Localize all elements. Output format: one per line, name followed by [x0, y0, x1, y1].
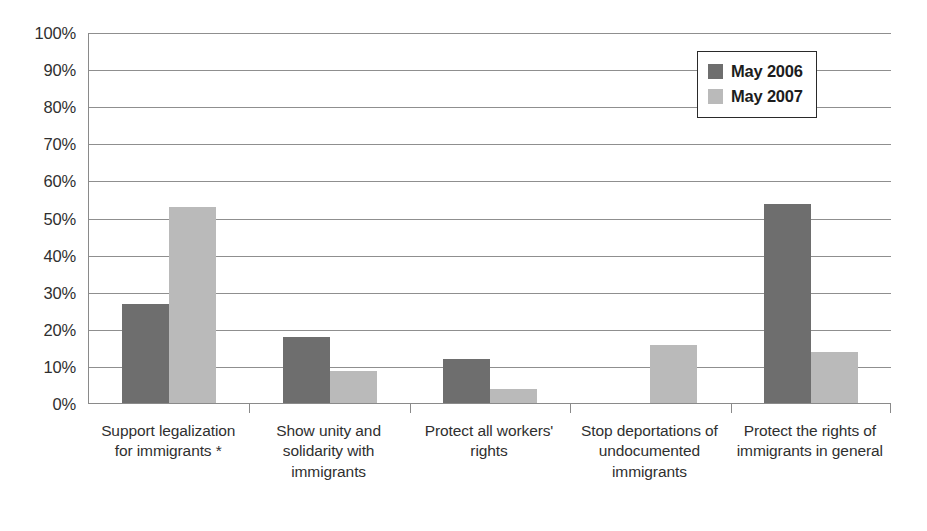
x-axis-tick: [570, 404, 571, 413]
y-axis-tick-label: 90%: [0, 62, 76, 79]
bar-group: [249, 33, 409, 404]
y-axis-tick-label: 0%: [0, 396, 76, 413]
legend-item[interactable]: May 2007: [708, 84, 803, 109]
y-axis: 100%90%80%70%60%50%40%30%20%10%0%: [0, 22, 84, 416]
category-label: Support legalization for immigrants *: [88, 421, 248, 521]
y-axis-tick-label: 60%: [0, 173, 76, 190]
x-axis-tick: [890, 404, 891, 413]
bar[interactable]: [650, 345, 697, 404]
category-label: Protect the rights of immigrants in gene…: [730, 421, 890, 521]
category-label: Stop deportations of undocumented immigr…: [569, 421, 729, 521]
bar[interactable]: [811, 352, 858, 404]
bar[interactable]: [330, 371, 377, 404]
legend-label: May 2006: [731, 62, 803, 81]
legend-swatch-icon: [708, 64, 723, 79]
bar-group: [89, 33, 249, 404]
bar[interactable]: [169, 207, 216, 404]
legend-label: May 2007: [731, 87, 803, 106]
y-axis-tick-label: 70%: [0, 136, 76, 153]
bar[interactable]: [283, 337, 330, 404]
y-axis-tick-label: 80%: [0, 99, 76, 116]
category-label: Show unity and solidarity with immigrant…: [248, 421, 408, 521]
bar[interactable]: [443, 359, 490, 404]
y-axis-tick-label: 30%: [0, 285, 76, 302]
bar-pair: [249, 33, 409, 404]
y-axis-tick-label: 100%: [0, 25, 76, 42]
bar-group: [410, 33, 570, 404]
y-axis-tick-label: 40%: [0, 248, 76, 265]
x-axis-line: [89, 403, 891, 404]
grouped-bar-chart: 100%90%80%70%60%50%40%30%20%10%0% Suppor…: [0, 0, 927, 531]
chart-legend: May 2006May 2007: [697, 51, 817, 118]
bar[interactable]: [122, 304, 169, 404]
y-axis-tick-label: 10%: [0, 359, 76, 376]
bar-pair: [410, 33, 570, 404]
x-axis-tick: [249, 404, 250, 413]
bar[interactable]: [764, 204, 811, 404]
legend-swatch-icon: [708, 89, 723, 104]
bar[interactable]: [490, 389, 537, 404]
category-labels: Support legalization for immigrants *Sho…: [88, 421, 890, 521]
category-label: Protect all workers' rights: [409, 421, 569, 521]
legend-item[interactable]: May 2006: [708, 59, 803, 84]
y-axis-tick-label: 20%: [0, 322, 76, 339]
x-axis-tick: [410, 404, 411, 413]
y-axis-tick-label: 50%: [0, 211, 76, 228]
bar-pair: [89, 33, 249, 404]
x-axis-tick: [731, 404, 732, 413]
